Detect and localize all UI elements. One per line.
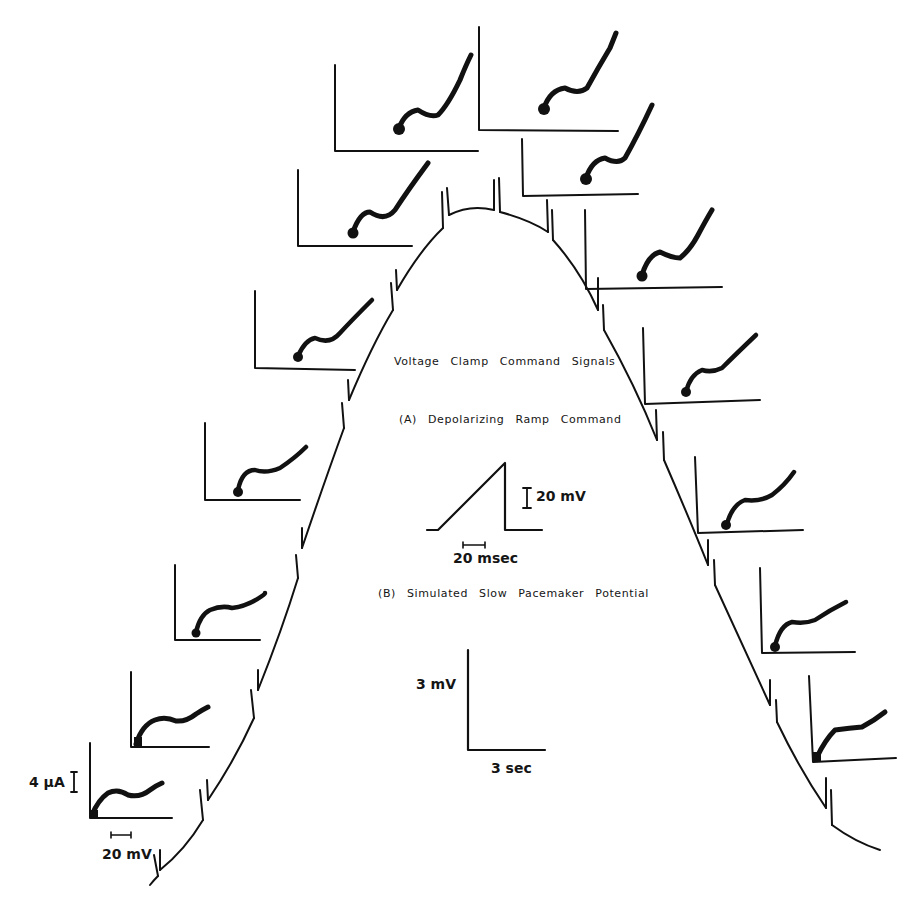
iv-panel-right-4 bbox=[695, 457, 803, 533]
iv-panel-top-left bbox=[335, 55, 478, 151]
ramp-voltage-scalebar bbox=[523, 488, 531, 508]
ramp-time-scalebar bbox=[463, 542, 485, 548]
figure-title: Voltage Clamp Command Signals bbox=[394, 355, 615, 368]
pacemaker-voltage-scale-label: 3 mV bbox=[416, 676, 456, 692]
ramp-command-inset bbox=[427, 463, 542, 530]
iv-panel-right-2 bbox=[585, 210, 722, 289]
iv-panel-left-3 bbox=[175, 565, 265, 640]
iv-panel-left-5 bbox=[255, 291, 372, 370]
iv-voltage-scale-label: 20 mV bbox=[102, 846, 152, 862]
pacemaker-waveform bbox=[150, 208, 880, 885]
iv-current-scalebar bbox=[71, 772, 77, 792]
iv-panel-left-2 bbox=[131, 672, 209, 747]
iv-panel-left-1 bbox=[90, 743, 172, 818]
figure-canvas bbox=[0, 0, 924, 919]
iv-panel-left-4 bbox=[205, 423, 306, 500]
pacemaker-scalebar bbox=[468, 650, 545, 750]
part-b-label: (B) Simulated Slow Pacemaker Potential bbox=[378, 587, 649, 600]
ramp-voltage-scale-label: 20 mV bbox=[536, 488, 586, 504]
iv-panel-right-5 bbox=[760, 568, 855, 653]
iv-panel-right-3 bbox=[643, 328, 760, 404]
iv-panel-right-6 bbox=[809, 676, 896, 762]
iv-panel-right-1 bbox=[522, 105, 652, 196]
iv-panel-top-right bbox=[479, 27, 618, 131]
iv-panel-left-6 bbox=[298, 163, 428, 246]
iv-voltage-scalebar bbox=[111, 832, 131, 838]
pacemaker-time-scale-label: 3 sec bbox=[491, 760, 532, 776]
part-a-label: (A) Depolarizing Ramp Command bbox=[399, 413, 621, 426]
ramp-time-scale-label: 20 msec bbox=[453, 550, 518, 566]
iv-current-scale-label: 4 µA bbox=[29, 774, 65, 790]
